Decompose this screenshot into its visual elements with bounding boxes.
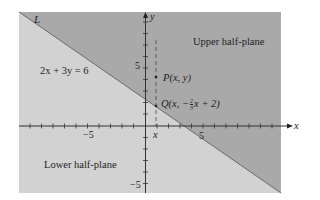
tick-label-y-pos5: 5	[135, 61, 140, 71]
point-q-label: Q(x, −23x + 2)	[161, 98, 220, 111]
fraction-numerator: 2	[190, 98, 193, 105]
tick-label-x-neg5: −5	[83, 130, 94, 140]
x-axis-arrow-icon	[287, 124, 293, 129]
fraction-denominator: 3	[190, 105, 193, 111]
point-q-fraction: 23	[190, 98, 193, 111]
x-axis-label: x	[294, 121, 299, 132]
point-p-label: P(x, y)	[163, 73, 191, 84]
point-q	[155, 105, 158, 108]
tick-label-x-pos5: 5	[199, 131, 204, 141]
y-axis-label: y	[150, 12, 155, 23]
point-q-coord-start: (x, −	[169, 98, 190, 109]
point-q-coord-end: x + 2)	[194, 98, 220, 109]
point-q-name: Q	[161, 98, 169, 109]
lower-half-plane-label: Lower half-plane	[44, 160, 117, 171]
x-marker-label: x	[153, 130, 158, 141]
equation-label: 2x + 3y = 6	[40, 66, 89, 77]
tick-label-y-neg5: −5	[130, 180, 141, 190]
upper-half-plane-label: Upper half-plane	[193, 37, 264, 48]
line-label: L	[34, 14, 40, 25]
point-p	[155, 76, 158, 79]
